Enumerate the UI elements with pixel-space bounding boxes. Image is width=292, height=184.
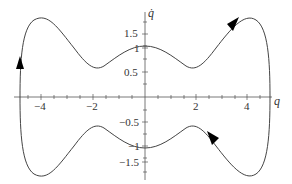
y-tick-label: −0.5 [119, 116, 139, 128]
y-tick-label: 0.5 [124, 66, 138, 78]
phase-portrait-plot: −4 −2 2 4 1.5 1 0.5 −0.5 −1 −1.5 q q̇ [0, 0, 292, 184]
q-axis [14, 94, 272, 100]
x-tick-label: 2 [193, 100, 199, 112]
y-tick-label: 1.5 [124, 27, 138, 39]
q-axis-label: q [274, 94, 280, 108]
x-tick-label: −2 [86, 100, 98, 112]
arrow-upleft-icon [207, 131, 219, 145]
x-tick-label: 4 [244, 100, 250, 112]
qdot-axis [142, 12, 148, 180]
phase-portrait-figure: −4 −2 2 4 1.5 1 0.5 −0.5 −1 −1.5 q q̇ [0, 0, 292, 184]
qdot-axis-label: q̇ [148, 6, 154, 20]
arrow-up-icon [16, 56, 24, 69]
x-tick-label: −4 [34, 100, 46, 112]
y-tick-label: −1.5 [119, 156, 139, 168]
